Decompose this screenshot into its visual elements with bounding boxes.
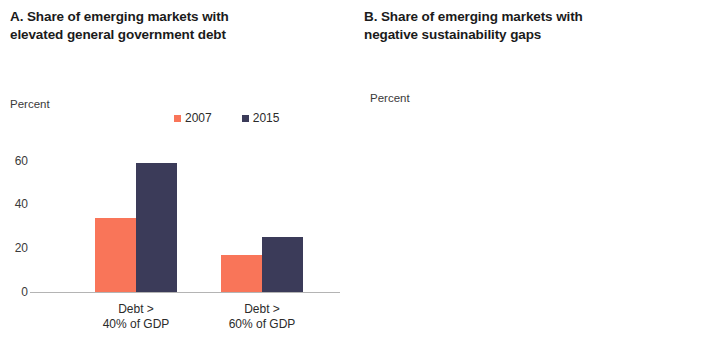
panel-a-ytick-40: 40: [0, 197, 28, 211]
chart-panel-a: A. Share of emerging markets with elevat…: [0, 0, 354, 338]
panel-b-title: B. Share of emerging markets with negati…: [364, 8, 694, 44]
figure-container: A. Share of emerging markets with elevat…: [0, 0, 707, 338]
legend-swatch-icon-2015: [242, 115, 249, 122]
panel-a-baseline: [30, 292, 340, 293]
legend-item-2015: 2015: [242, 111, 280, 125]
panel-a-category-label-1: Debt > 40% of GDP: [76, 302, 196, 332]
legend-item-2007: 2007: [174, 111, 212, 125]
panel-a-ytick-20: 20: [0, 241, 28, 255]
panel-a-ytick-60: 60: [0, 154, 28, 168]
panel-a-ytick-0: 0: [0, 285, 28, 299]
panel-a-legend: 2007 2015: [174, 111, 279, 125]
panel-b-axis-unit-label: Percent: [370, 92, 410, 104]
bar-2015-group2: [262, 237, 303, 292]
legend-label-2007: 2007: [185, 111, 212, 125]
panel-a-axis-unit-label: Percent: [10, 98, 50, 110]
bar-2007-group1: [95, 218, 136, 292]
chart-panel-b: B. Share of emerging markets with negati…: [354, 0, 707, 338]
legend-swatch-icon-2007: [174, 115, 181, 122]
legend-label-2015: 2015: [253, 111, 280, 125]
bar-2007-group2: [221, 255, 262, 292]
panel-a-category-label-2: Debt > 60% of GDP: [202, 302, 322, 332]
panel-a-plot-area: 0204060 Debt > 40% of GDPDebt > 60% of G…: [0, 140, 354, 300]
bar-2015-group1: [136, 163, 177, 292]
panel-a-title: A. Share of emerging markets with elevat…: [10, 8, 340, 44]
